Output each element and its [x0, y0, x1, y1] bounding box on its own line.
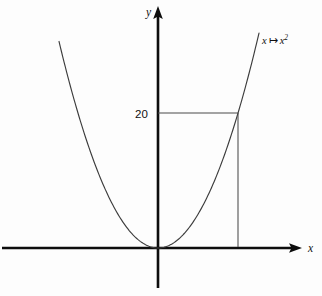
x-axis-label: x — [307, 242, 314, 254]
y-tick-label-20: 20 — [135, 108, 148, 120]
function-label-exponent: 2 — [284, 33, 288, 42]
function-label-arg: x — [261, 35, 267, 46]
function-label: x↦x2 — [261, 33, 288, 46]
parabola-figure: y x 20 x↦x2 — [0, 0, 322, 296]
y-axis-label: y — [145, 6, 152, 19]
plot-canvas: y x 20 x↦x2 — [0, 0, 322, 296]
maps-to-icon: ↦ — [269, 35, 278, 46]
